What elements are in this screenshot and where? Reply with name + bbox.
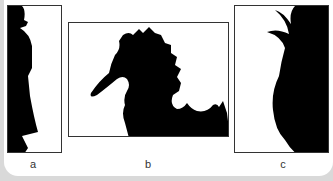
seahorse-silhouette-icon	[69, 23, 229, 137]
man-silhouette-icon	[8, 6, 62, 153]
panel-a	[7, 5, 62, 153]
panel-c-label: c	[273, 158, 293, 170]
panel-b-label: b	[138, 158, 158, 170]
panel-a-label: a	[23, 158, 43, 170]
panel-b	[68, 22, 229, 137]
pineapple-silhouette-icon	[235, 6, 329, 153]
panel-c	[234, 5, 329, 153]
